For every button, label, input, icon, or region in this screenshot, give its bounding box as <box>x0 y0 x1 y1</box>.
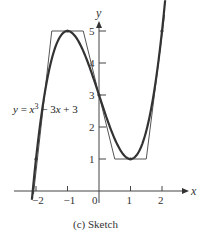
curve-point <box>129 157 132 160</box>
x-tick-label: 2 <box>158 194 164 206</box>
caption: (c) Sketch <box>73 218 118 231</box>
x-tick-label: 1 <box>127 194 133 206</box>
y-axis-arrow-icon <box>96 21 102 28</box>
curve-point <box>97 93 100 96</box>
x-axis-arrow-icon <box>182 188 189 194</box>
y-tick-label: 5 <box>89 25 95 37</box>
curve-point <box>160 29 163 32</box>
y-axis-label: y <box>95 6 102 20</box>
y-tick-label: 1 <box>89 153 95 165</box>
chart: x y −2−101212345 y = x3 − 3x + 3 (c) Ske… <box>0 0 209 236</box>
x-tick-label: −1 <box>64 194 76 206</box>
curve-point <box>66 29 69 32</box>
x-axis-label: x <box>190 184 197 198</box>
y-tick-label: 2 <box>89 121 95 133</box>
x-tick-label: 0 <box>92 194 98 206</box>
ticks: −2−101212345 <box>32 25 164 206</box>
y-tick-label: 3 <box>89 89 95 101</box>
equation-annotation: y = x3 − 3x + 3 <box>12 102 78 115</box>
x-tick-label: −2 <box>32 194 44 206</box>
curve-point <box>34 157 37 160</box>
